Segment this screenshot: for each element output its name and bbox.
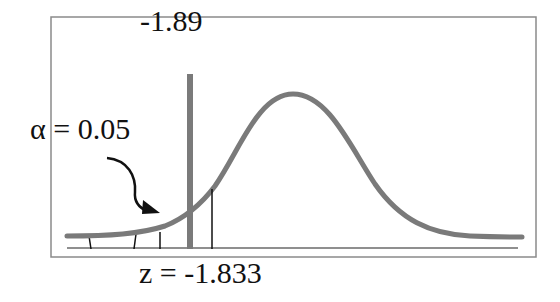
arrow-head-icon	[142, 200, 160, 214]
alpha-arrow-icon	[107, 158, 147, 211]
z-statistic-label: z = -1.833	[139, 258, 262, 288]
critical-value-bar	[187, 74, 193, 249]
tail-tick-2	[134, 234, 136, 249]
normal-distribution-diagram	[0, 0, 560, 302]
critical-value-label: -1.89	[140, 6, 203, 36]
normal-curve	[67, 94, 522, 237]
alpha-label: α = 0.05	[30, 114, 130, 144]
